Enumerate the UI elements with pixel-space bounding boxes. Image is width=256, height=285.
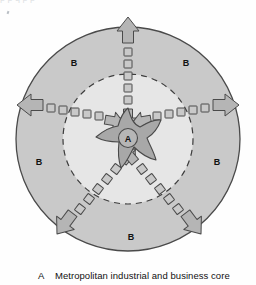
radial-flow-diagram: A B B B B B	[0, 0, 256, 285]
ring-label-b-bottom: B	[128, 232, 135, 242]
legend-row: A Metropolitan industrial and business c…	[0, 266, 256, 285]
legend-description-a: Metropolitan industrial and business cor…	[55, 270, 230, 281]
ring-label-b-upper-left: B	[71, 58, 78, 68]
core-label-a: A	[125, 134, 132, 144]
ring-label-b-left: B	[36, 157, 43, 167]
ring-label-b-right: B	[214, 157, 221, 167]
legend-key-a: A	[38, 270, 55, 281]
figure-root: p p q p p	[0, 0, 256, 285]
ring-label-b-upper-right: B	[183, 58, 190, 68]
link-chain-up	[124, 48, 132, 104]
